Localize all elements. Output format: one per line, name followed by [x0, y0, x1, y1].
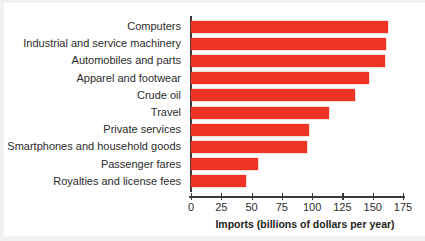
- bar-series: [191, 18, 403, 190]
- x-axis-tick-label: 100: [303, 201, 321, 213]
- bar: [191, 89, 355, 101]
- category-label: Travel: [0, 104, 186, 121]
- x-axis-tick-labels: 0255075100125150175: [191, 201, 403, 215]
- category-label: Crude oil: [0, 87, 186, 104]
- x-axis-title: Imports (billions of dollars per year): [189, 218, 421, 230]
- scan-edge-artifact-bottom: [0, 236, 425, 241]
- x-axis-tick: [373, 193, 374, 200]
- x-axis-tick: [282, 193, 283, 200]
- category-label: Royalties and license fees: [0, 173, 186, 190]
- x-axis-tick-label: 175: [394, 201, 412, 213]
- bar-row: [191, 18, 403, 35]
- imports-bar-chart: Computers Industrial and service machine…: [0, 0, 425, 241]
- bar-row: [191, 156, 403, 173]
- x-axis-tick: [252, 193, 253, 200]
- bar-row: [191, 138, 403, 155]
- x-axis-ticks: [191, 193, 403, 200]
- x-axis-tick: [191, 193, 192, 200]
- bar: [191, 21, 388, 33]
- bar-row: [191, 121, 403, 138]
- bar: [191, 107, 329, 119]
- x-axis-tick-label: 25: [215, 201, 227, 213]
- x-axis-tick: [312, 193, 313, 200]
- x-axis-tick-label: 50: [245, 201, 257, 213]
- x-axis-tick-label: 75: [276, 201, 288, 213]
- bar: [191, 175, 246, 187]
- bar: [191, 38, 386, 50]
- category-label: Automobiles and parts: [0, 52, 186, 69]
- bar: [191, 55, 385, 67]
- category-label: Computers: [0, 18, 186, 35]
- category-label: Private services: [0, 121, 186, 138]
- category-label: Apparel and footwear: [0, 70, 186, 87]
- bar: [191, 158, 258, 170]
- x-axis-tick-label: 125: [333, 201, 351, 213]
- category-label: Smartphones and household goods: [0, 138, 186, 155]
- x-axis-tick: [403, 193, 404, 200]
- plot-area: [191, 18, 403, 190]
- bar-row: [191, 52, 403, 69]
- bar-row: [191, 35, 403, 52]
- x-axis-tick-label: 0: [188, 201, 194, 213]
- scan-edge-artifact-top: [0, 0, 425, 3]
- category-label: Passenger fares: [0, 156, 186, 173]
- x-axis-tick: [221, 193, 222, 200]
- x-axis-tick-label: 150: [364, 201, 382, 213]
- bar: [191, 141, 307, 153]
- category-label: Industrial and service machinery: [0, 35, 186, 52]
- bar-row: [191, 87, 403, 104]
- bar-row: [191, 70, 403, 87]
- bar-row: [191, 104, 403, 121]
- bar: [191, 124, 309, 136]
- bar-row: [191, 173, 403, 190]
- x-axis-tick: [342, 193, 343, 200]
- bar: [191, 72, 369, 84]
- category-axis-labels: Computers Industrial and service machine…: [0, 18, 186, 190]
